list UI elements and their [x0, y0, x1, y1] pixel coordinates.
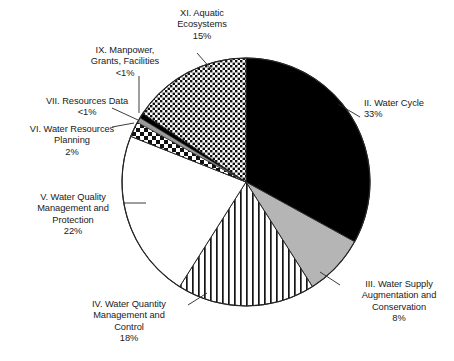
- slice-label-aquatic-ecosystems: XI. Aquatic Ecosystems 15%: [142, 8, 262, 42]
- slice-label-manpower-grants-facilities: IX. Manpower, Grants, Facilities <1%: [60, 45, 190, 79]
- slice-label-water-quality: V. Water Quality Management and Protecti…: [10, 192, 136, 238]
- slice-label-water-supply: III. Water Supply Augmentation and Conse…: [344, 279, 454, 325]
- slice-label-water-quantity: IV. Water Quantity Management and Contro…: [64, 299, 194, 345]
- slice-label-water-cycle: II. Water Cycle 33%: [364, 98, 454, 121]
- pie-chart-figure: XI. Aquatic Ecosystems 15% IX. Manpower,…: [0, 0, 454, 361]
- slice-label-resources-data: VII. Resources Data <1%: [12, 96, 162, 119]
- slice-label-water-resources-planning: VI. Water Resources Planning 2%: [2, 124, 142, 158]
